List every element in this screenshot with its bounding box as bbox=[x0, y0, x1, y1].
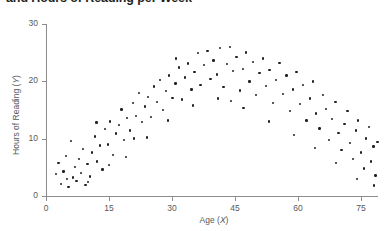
data-point bbox=[222, 86, 224, 88]
x-tick-label: 0 bbox=[34, 203, 58, 213]
x-tick-label: 45 bbox=[223, 203, 247, 213]
data-point bbox=[349, 142, 351, 144]
data-point bbox=[192, 104, 194, 106]
data-point bbox=[365, 137, 367, 139]
data-point bbox=[374, 174, 376, 176]
x-tick-mark bbox=[361, 197, 362, 201]
data-point bbox=[96, 160, 98, 162]
data-point bbox=[141, 121, 143, 123]
data-point bbox=[372, 145, 374, 147]
y-tick-label: 0 bbox=[14, 190, 38, 200]
data-point bbox=[360, 151, 362, 153]
data-point bbox=[272, 102, 274, 104]
data-point bbox=[209, 78, 211, 80]
data-point bbox=[91, 151, 93, 153]
data-point bbox=[314, 147, 316, 149]
data-point bbox=[346, 110, 348, 112]
data-point bbox=[357, 119, 359, 121]
data-point bbox=[370, 160, 372, 162]
data-point bbox=[178, 66, 180, 68]
chart-title: and Hours of Reading per Week bbox=[6, 0, 192, 5]
data-point bbox=[219, 47, 221, 49]
data-point bbox=[239, 89, 241, 91]
data-point bbox=[340, 149, 342, 151]
x-tick-mark bbox=[235, 197, 236, 201]
data-point bbox=[252, 61, 254, 63]
data-point bbox=[248, 80, 250, 82]
data-point bbox=[289, 110, 291, 112]
data-point bbox=[212, 59, 214, 61]
data-point bbox=[101, 168, 103, 170]
data-point bbox=[337, 132, 339, 134]
chart-screenshot: and Hours of Reading per Week 0102030 01… bbox=[0, 0, 388, 231]
data-point bbox=[75, 180, 77, 182]
data-point bbox=[343, 123, 345, 125]
y-tick-label: 30 bbox=[14, 18, 38, 28]
data-point bbox=[199, 84, 201, 86]
data-point bbox=[153, 85, 155, 87]
x-tick-mark bbox=[109, 197, 110, 201]
data-point bbox=[197, 52, 199, 54]
data-point bbox=[65, 155, 67, 157]
y-axis-title: Hours of Reading (Y) bbox=[11, 55, 21, 175]
data-point bbox=[62, 170, 64, 172]
data-point bbox=[232, 70, 234, 72]
data-point bbox=[242, 107, 244, 109]
x-tick-mark bbox=[172, 197, 173, 201]
data-point bbox=[352, 158, 354, 160]
data-point bbox=[80, 172, 82, 174]
data-point bbox=[135, 115, 137, 117]
data-point bbox=[355, 129, 357, 131]
data-point bbox=[229, 46, 231, 48]
x-tick-label: 60 bbox=[286, 203, 310, 213]
data-point bbox=[334, 101, 336, 103]
data-point bbox=[203, 64, 205, 66]
data-point bbox=[57, 162, 59, 164]
data-point bbox=[167, 119, 169, 121]
data-point bbox=[293, 134, 295, 136]
data-point bbox=[265, 85, 267, 87]
data-point bbox=[165, 90, 167, 92]
scatter-plot-area bbox=[46, 24, 378, 196]
data-point bbox=[193, 71, 195, 73]
data-point bbox=[325, 108, 327, 110]
data-point bbox=[171, 97, 173, 99]
data-point bbox=[292, 88, 294, 90]
data-point bbox=[328, 139, 330, 141]
data-point bbox=[82, 148, 84, 150]
data-point bbox=[115, 132, 117, 134]
data-point bbox=[108, 164, 110, 166]
data-point bbox=[60, 183, 62, 185]
data-point bbox=[309, 97, 311, 99]
data-point bbox=[138, 92, 140, 94]
data-point bbox=[275, 79, 277, 81]
data-point bbox=[315, 112, 317, 114]
data-point bbox=[184, 76, 186, 78]
data-point bbox=[89, 175, 91, 177]
data-point bbox=[262, 57, 264, 59]
data-point bbox=[278, 62, 280, 64]
data-point bbox=[226, 63, 228, 65]
data-point bbox=[74, 166, 76, 168]
data-point bbox=[245, 51, 247, 53]
data-point bbox=[70, 140, 72, 142]
data-point bbox=[242, 68, 244, 70]
x-tick-mark bbox=[46, 197, 47, 201]
data-point bbox=[84, 184, 86, 186]
data-point bbox=[150, 116, 152, 118]
data-point bbox=[132, 102, 134, 104]
data-point bbox=[217, 97, 219, 99]
data-point bbox=[285, 74, 287, 76]
data-point bbox=[363, 167, 365, 169]
data-point bbox=[295, 71, 297, 73]
x-tick-mark bbox=[298, 197, 299, 201]
data-point bbox=[87, 181, 89, 183]
data-point bbox=[206, 50, 208, 52]
data-point bbox=[255, 94, 257, 96]
data-point bbox=[66, 178, 68, 180]
data-point bbox=[190, 88, 192, 90]
data-point bbox=[216, 73, 218, 75]
data-point bbox=[146, 136, 148, 138]
data-point bbox=[156, 101, 158, 103]
data-point bbox=[126, 117, 128, 119]
